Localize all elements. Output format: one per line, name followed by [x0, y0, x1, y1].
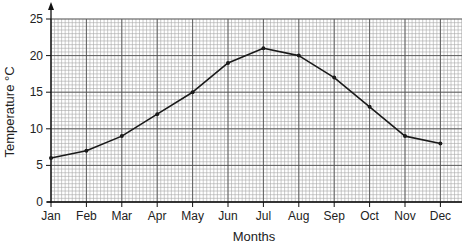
temperature-line-chart: 0510152025 JanFebMarAprMayJunJulAugSepOc… — [0, 0, 462, 245]
data-point — [438, 141, 442, 145]
data-point — [332, 76, 336, 80]
x-tick-label: Jul — [256, 209, 271, 223]
y-axis-title: Temperature °C — [2, 66, 17, 157]
y-tick-label: 5 — [36, 158, 43, 172]
x-tick-label: Nov — [394, 209, 415, 223]
x-tick-label: Jun — [218, 209, 237, 223]
y-tick-label: 20 — [30, 49, 44, 63]
y-tick-label: 25 — [30, 12, 44, 26]
data-point — [297, 54, 301, 58]
data-point — [155, 112, 159, 116]
x-tick-label: Dec — [430, 209, 451, 223]
x-tick-label: Feb — [76, 209, 97, 223]
y-tick-label: 10 — [30, 122, 44, 136]
data-point — [261, 46, 265, 50]
y-tick-label: 15 — [30, 85, 44, 99]
data-point — [226, 61, 230, 65]
x-axis-ticks: JanFebMarAprMayJunJulAugSepOctNovDec — [41, 202, 451, 223]
y-axis-ticks: 0510152025 — [30, 12, 51, 209]
x-axis-title: Months — [233, 229, 276, 244]
data-point — [84, 149, 88, 153]
x-tick-label: Mar — [111, 209, 132, 223]
data-point — [191, 90, 195, 94]
data-point — [368, 105, 372, 109]
x-tick-label: Aug — [288, 209, 309, 223]
y-tick-label: 0 — [36, 195, 43, 209]
data-point — [403, 134, 407, 138]
x-tick-label: Sep — [324, 209, 346, 223]
x-tick-label: Jan — [41, 209, 60, 223]
x-tick-label: Oct — [360, 209, 379, 223]
minor-grid — [51, 19, 462, 202]
x-tick-label: May — [181, 209, 204, 223]
data-point — [120, 134, 124, 138]
x-tick-label: Apr — [148, 209, 167, 223]
data-point — [49, 156, 53, 160]
